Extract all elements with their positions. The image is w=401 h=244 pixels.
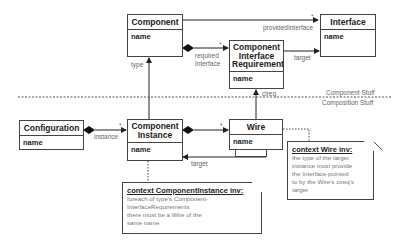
class-name: Component: [128, 15, 182, 30]
multiplicity-required-interface: *: [219, 41, 222, 49]
class-component-interface-requirement[interactable]: Component Interface Requirement name: [229, 40, 284, 89]
class-attribute: name: [128, 143, 182, 156]
class-component[interactable]: Component name: [127, 14, 183, 57]
note-line: InterfaceRequirements: [127, 203, 257, 211]
note-title: context Wire inv:: [292, 145, 369, 154]
note-line: to by the Wire's cireq's: [292, 178, 369, 186]
note-fold: [364, 141, 374, 151]
role-instance: instance: [94, 133, 118, 141]
multiplicity-instance: *: [119, 122, 122, 130]
class-attribute: name: [20, 136, 83, 149]
class-name: Interface: [321, 15, 375, 30]
role-required-interface: required Interface: [195, 52, 220, 67]
note-component-instance-invariant: context ComponentInstance inv: foreach o…: [122, 182, 262, 234]
class-name: Component Instance: [128, 120, 182, 143]
role-line: Interface: [195, 60, 220, 68]
region-label-composition-stuff: Composition Stuff: [322, 99, 373, 106]
note-line: same name: [127, 219, 257, 227]
note-line: the type of the target: [292, 154, 369, 162]
class-wire[interactable]: Wire name: [229, 119, 283, 150]
role-provided-interface: providedInterface: [263, 24, 313, 32]
note-line: there must be a Wire of the: [127, 211, 257, 219]
note-line: instance must provide: [292, 162, 369, 170]
multiplicity-wire: *: [220, 122, 223, 130]
role-cireq: cireq: [262, 90, 276, 98]
note-line: the Interface pointed: [292, 170, 369, 178]
role-target-wire: target: [191, 160, 208, 168]
class-component-instance[interactable]: Component Instance name: [127, 119, 183, 161]
region-label-component-stuff: Component Stuff: [326, 89, 375, 96]
class-name: Component Interface Requirement: [230, 41, 283, 72]
class-interface[interactable]: Interface name: [320, 14, 376, 57]
note-fold: [252, 182, 262, 192]
class-attribute: name: [321, 30, 375, 43]
class-attribute: name: [230, 135, 282, 148]
note-line: target: [292, 186, 369, 194]
note-body: foreach of type's Component- InterfaceRe…: [127, 195, 257, 227]
class-attribute: name: [230, 72, 283, 85]
role-line: required: [195, 52, 220, 60]
class-name-line: Instance: [130, 131, 180, 140]
note-title: context ComponentInstance inv:: [127, 186, 257, 195]
note-body: the type of the target instance must pro…: [292, 154, 369, 194]
class-name: Wire: [230, 120, 282, 135]
role-target-cir: target: [294, 54, 311, 62]
multiplicity-provided-interface: *: [311, 13, 314, 21]
role-type: type: [131, 61, 143, 69]
note-line: foreach of type's Component-: [127, 195, 257, 203]
note-wire-invariant: context Wire inv: the type of the target…: [287, 141, 374, 200]
class-attribute: name: [128, 30, 182, 43]
class-name: Configuration: [20, 121, 83, 136]
class-name-line: Requirement: [232, 60, 281, 69]
class-configuration[interactable]: Configuration name: [19, 120, 84, 150]
